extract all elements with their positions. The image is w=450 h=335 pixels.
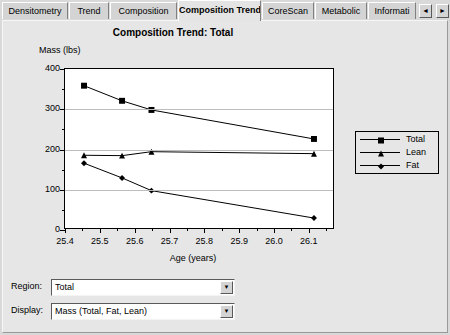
tab-scroll-right-icon[interactable]: ► <box>436 4 449 18</box>
x-axis-tick-label: 25.4 <box>50 236 80 246</box>
x-axis-minor-tick <box>187 228 188 231</box>
x-axis-tick-label: 25.7 <box>155 236 185 246</box>
data-point <box>311 136 317 142</box>
tab-label: Composition <box>118 6 168 16</box>
y-axis-minor-tick <box>62 170 65 171</box>
y-axis-minor-tick <box>62 129 65 130</box>
chevron-down-icon[interactable]: ▼ <box>220 281 233 294</box>
x-axis-tick <box>135 228 136 233</box>
tab-metabolic[interactable]: Metabolic <box>315 2 367 19</box>
tab-composition-trend[interactable]: Composition Trend <box>178 0 261 21</box>
y-axis-tick <box>60 150 65 151</box>
tab-bar: DensitometryTrendCompositionComposition … <box>0 0 450 21</box>
tab-composition[interactable]: Composition <box>110 2 177 19</box>
x-axis-minor-tick <box>117 228 118 231</box>
region-value: Total <box>55 282 74 292</box>
legend-label: Total <box>406 133 425 146</box>
tab-label: Metabolic <box>322 6 361 16</box>
chart-legend: TotalLeanFat <box>355 131 439 174</box>
tab-label: Composition Trend <box>179 5 261 15</box>
legend-label: Fat <box>406 159 419 172</box>
tab-corescan[interactable]: CoreScan <box>262 2 314 19</box>
legend-item-fat: Fat <box>356 159 440 172</box>
x-axis-tick-label: 25.8 <box>189 236 219 246</box>
x-axis-tick <box>309 228 310 233</box>
y-gridline <box>65 190 333 191</box>
composition-trend-chart: Composition Trend: Total Mass (lbs) Age … <box>3 21 449 261</box>
x-axis-minor-tick <box>326 228 327 231</box>
tab-content-panel: Composition Trend: Total Mass (lbs) Age … <box>2 20 448 333</box>
x-axis-tick-label: 26.1 <box>294 236 324 246</box>
y-axis-tick <box>60 69 65 70</box>
series-line <box>84 152 314 156</box>
data-point <box>119 98 125 104</box>
tab-label: Informati <box>374 6 409 16</box>
tab-label: Trend <box>77 6 100 16</box>
data-point <box>81 160 87 166</box>
y-axis-tick <box>60 109 65 110</box>
plot-area: 010020030040025.425.525.625.725.825.926.… <box>64 68 334 229</box>
data-point <box>81 83 87 89</box>
tab-informati[interactable]: Informati <box>368 2 416 19</box>
x-axis-tick <box>100 228 101 233</box>
y-gridline <box>65 150 333 151</box>
x-axis-tick-label: 25.6 <box>120 236 150 246</box>
x-axis-tick <box>170 228 171 233</box>
x-axis-tick <box>239 228 240 233</box>
legend-label: Lean <box>406 146 426 159</box>
region-select[interactable]: Total ▼ <box>51 279 235 296</box>
legend-marker-diamond-icon <box>376 162 386 171</box>
legend-item-total: Total <box>356 133 440 146</box>
y-axis-label: Mass (lbs) <box>39 45 81 55</box>
x-axis-tick <box>204 228 205 233</box>
y-axis-tick-label: 0 <box>34 224 60 234</box>
y-axis-tick-label: 100 <box>34 184 60 194</box>
y-axis-tick-label: 300 <box>34 103 60 113</box>
x-axis-tick-label: 26.0 <box>259 236 289 246</box>
y-axis-minor-tick <box>62 89 65 90</box>
x-axis-tick <box>65 228 66 233</box>
legend-marker-square-icon <box>376 136 386 145</box>
x-axis-minor-tick <box>257 228 258 231</box>
chart-title: Composition Trend: Total <box>3 27 343 38</box>
tab-scroll-left-icon[interactable]: ◄ <box>419 4 432 18</box>
x-axis-tick <box>274 228 275 233</box>
display-label: Display: <box>11 305 43 315</box>
data-point <box>311 215 317 221</box>
series-layer <box>65 69 333 228</box>
y-axis-tick <box>60 190 65 191</box>
x-axis-tick-label: 25.9 <box>224 236 254 246</box>
data-point <box>119 175 125 181</box>
x-axis-minor-tick <box>82 228 83 231</box>
tab-label: CoreScan <box>268 6 308 16</box>
tab-label: Densitometry <box>8 6 61 16</box>
y-axis-tick-label: 400 <box>34 63 60 73</box>
y-axis-minor-tick <box>62 210 65 211</box>
region-label: Region: <box>11 281 42 291</box>
y-gridline <box>65 109 333 110</box>
y-axis-tick-label: 200 <box>34 144 60 154</box>
display-value: Mass (Total, Fat, Lean) <box>55 306 147 316</box>
x-axis-minor-tick <box>152 228 153 231</box>
x-axis-minor-tick <box>291 228 292 231</box>
series-total <box>81 83 317 142</box>
series-line <box>84 86 314 139</box>
legend-item-lean: Lean <box>356 146 440 159</box>
tab-densitometry[interactable]: Densitometry <box>2 2 68 19</box>
x-axis-label: Age (years) <box>113 253 273 263</box>
x-axis-minor-tick <box>222 228 223 231</box>
chevron-down-icon[interactable]: ▼ <box>220 305 233 318</box>
tab-trend[interactable]: Trend <box>69 2 109 19</box>
region-control-row: Region: Total ▼ <box>11 279 235 296</box>
display-select[interactable]: Mass (Total, Fat, Lean) ▼ <box>51 303 235 320</box>
x-axis-tick-label: 25.5 <box>85 236 115 246</box>
legend-marker-triangle-icon <box>376 149 386 158</box>
display-control-row: Display: Mass (Total, Fat, Lean) ▼ <box>11 303 235 320</box>
